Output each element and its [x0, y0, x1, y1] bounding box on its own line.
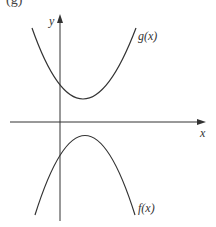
curve-g: [32, 28, 136, 99]
function-graph-figure: (g) x y g(x) f(x): [0, 0, 216, 227]
y-axis: [57, 14, 63, 221]
curve-f: [35, 136, 135, 216]
y-axis-label: y: [48, 14, 55, 28]
curve-g-label: g(x): [138, 29, 157, 43]
graph-canvas: x y g(x) f(x): [0, 0, 216, 227]
curve-f-label: f(x): [138, 201, 155, 215]
x-axis-label: x: [199, 126, 206, 140]
x-axis-arrow-icon: [197, 119, 206, 125]
y-axis-arrow-icon: [57, 14, 63, 23]
x-axis: [10, 119, 206, 125]
panel-label: (g): [6, 0, 22, 8]
